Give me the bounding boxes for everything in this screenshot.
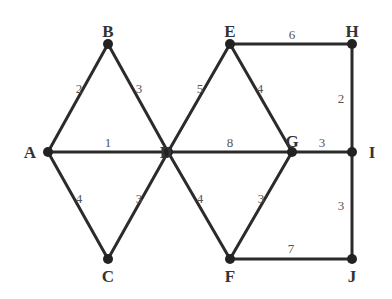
node-I [347, 147, 357, 157]
node-label-G: G [285, 132, 298, 151]
edge-weight-A-D: 1 [105, 135, 112, 150]
edge-weight-F-G: 3 [258, 191, 265, 206]
node-C [103, 254, 113, 264]
edges-layer [48, 44, 352, 259]
edge-weight-E-G: 4 [257, 81, 264, 96]
node-label-H: H [345, 22, 358, 41]
edge-weight-G-I: 3 [319, 135, 326, 150]
node-label-I: I [369, 143, 376, 162]
edge-B-D [108, 44, 168, 152]
edge-weight-E-H: 6 [289, 27, 296, 42]
node-label-B: B [102, 22, 113, 41]
node-label-A: A [24, 143, 37, 162]
edge-weight-I-J: 3 [338, 198, 345, 213]
edge-weight-A-C: 4 [76, 191, 83, 206]
edge-weight-C-D: 3 [136, 191, 143, 206]
node-labels-layer: ABCDEFGHIJ [24, 22, 376, 286]
node-F [225, 254, 235, 264]
edge-E-G [230, 44, 292, 152]
edge-weight-F-J: 7 [288, 241, 295, 256]
edge-weight-D-E: 5 [197, 81, 204, 96]
node-label-E: E [224, 22, 235, 41]
node-label-J: J [348, 267, 357, 286]
edge-A-B [48, 44, 108, 152]
node-J [347, 254, 357, 264]
edge-D-E [168, 44, 230, 152]
weighted-graph-diagram: 231435484362337 ABCDEFGHIJ [0, 0, 392, 299]
node-label-F: F [225, 267, 235, 286]
edge-weight-D-F: 4 [197, 191, 204, 206]
edge-weight-B-D: 3 [136, 81, 143, 96]
node-label-C: C [102, 267, 114, 286]
node-label-D: D [160, 143, 172, 162]
edge-weight-A-B: 2 [76, 81, 83, 96]
node-A [43, 147, 53, 157]
edge-weight-H-I: 2 [338, 91, 345, 106]
edge-weight-D-G: 8 [227, 135, 234, 150]
